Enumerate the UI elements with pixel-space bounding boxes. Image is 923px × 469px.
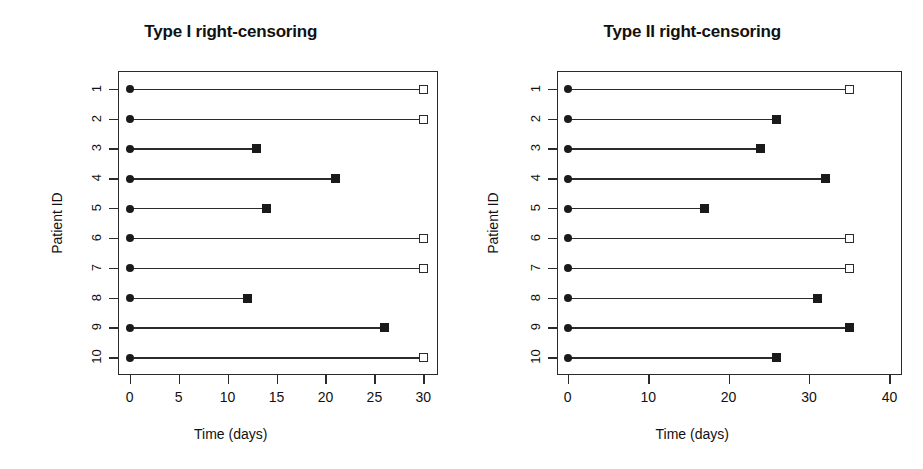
censored-marker: [845, 264, 854, 273]
event-marker: [252, 144, 261, 153]
followup-line: [568, 208, 705, 209]
followup-line: [130, 178, 336, 179]
y-axis-tick: [548, 357, 557, 358]
y-axis-tick: [109, 327, 118, 328]
x-axis-tick-label: 10: [220, 389, 236, 405]
y-axis-tick-label: 6: [89, 224, 104, 250]
x-axis-tick: [729, 375, 730, 384]
panel-type-i: Type I right-censoring Patient ID Time (…: [0, 0, 462, 469]
x-axis-tick-label: 20: [721, 389, 737, 405]
start-point-marker: [564, 115, 572, 123]
event-marker: [813, 294, 822, 303]
start-point-marker: [126, 354, 134, 362]
censored-marker: [419, 115, 428, 124]
censored-marker: [419, 85, 428, 94]
followup-line: [568, 238, 849, 239]
followup-line: [130, 148, 257, 149]
y-axis-tick-label: 3: [527, 135, 542, 161]
followup-line: [130, 89, 424, 90]
y-axis-tick-label: 9: [89, 314, 104, 340]
start-point-marker: [564, 294, 572, 302]
followup-line: [130, 357, 424, 358]
start-point-marker: [564, 354, 572, 362]
start-point-marker: [564, 175, 572, 183]
plot-area: [118, 71, 438, 375]
x-axis-tick: [568, 375, 569, 384]
x-axis-tick: [648, 375, 649, 384]
followup-line: [568, 327, 849, 328]
event-marker: [845, 323, 854, 332]
y-axis-tick-label: 1: [527, 75, 542, 101]
followup-line: [568, 298, 817, 299]
followup-line: [568, 357, 777, 358]
event-marker: [380, 323, 389, 332]
event-marker: [821, 174, 830, 183]
start-point-marker: [564, 264, 572, 272]
y-axis-tick: [548, 327, 557, 328]
y-axis-tick-label: 3: [89, 135, 104, 161]
event-marker: [772, 115, 781, 124]
followup-line: [130, 268, 424, 269]
start-point-marker: [126, 294, 134, 302]
x-axis-tick: [325, 375, 326, 384]
followup-line: [568, 268, 849, 269]
x-axis-tick-label: 30: [416, 389, 432, 405]
start-point-marker: [126, 115, 134, 123]
x-axis-tick: [809, 375, 810, 384]
y-axis-tick: [109, 119, 118, 120]
y-axis-tick: [548, 208, 557, 209]
start-point-marker: [126, 205, 134, 213]
x-axis-tick-label: 0: [126, 389, 134, 405]
censored-marker: [845, 85, 854, 94]
y-axis-tick-label: 8: [89, 284, 104, 310]
y-axis-tick: [109, 178, 118, 179]
x-axis-tick-label: 15: [269, 389, 285, 405]
followup-line: [130, 208, 267, 209]
start-point-marker: [564, 324, 572, 332]
x-axis-tick-label: 30: [801, 389, 817, 405]
followup-line: [568, 119, 777, 120]
y-axis-tick-label: 1: [89, 75, 104, 101]
x-axis-tick: [374, 375, 375, 384]
x-axis-tick: [179, 375, 180, 384]
y-axis-tick-label: 5: [527, 195, 542, 221]
y-axis-tick: [109, 357, 118, 358]
y-axis-tick: [109, 268, 118, 269]
y-axis-tick: [109, 298, 118, 299]
censored-marker: [419, 234, 428, 243]
start-point-marker: [126, 145, 134, 153]
x-axis-tick: [130, 375, 131, 384]
y-axis-tick-label: 7: [89, 254, 104, 280]
y-axis-tick: [548, 268, 557, 269]
x-axis-tick-label: 5: [175, 389, 183, 405]
x-axis-tick-label: 25: [367, 389, 383, 405]
x-axis-tick: [228, 375, 229, 384]
event-marker: [756, 144, 765, 153]
y-axis-tick-label: 6: [527, 224, 542, 250]
y-axis-tick: [548, 89, 557, 90]
y-axis-tick-label: 2: [527, 105, 542, 131]
y-axis-tick-label: 10: [89, 344, 104, 370]
x-axis-tick-label: 0: [564, 389, 572, 405]
y-axis-tick: [548, 178, 557, 179]
followup-line: [130, 298, 247, 299]
y-axis-tick-label: 2: [89, 105, 104, 131]
start-point-marker: [126, 264, 134, 272]
start-point-marker: [564, 205, 572, 213]
start-point-marker: [564, 145, 572, 153]
y-axis-tick: [109, 148, 118, 149]
event-marker: [331, 174, 340, 183]
y-axis-tick-label: 9: [527, 314, 542, 340]
x-axis-tick: [423, 375, 424, 384]
x-axis-tick: [277, 375, 278, 384]
start-point-marker: [126, 175, 134, 183]
y-axis-tick: [109, 89, 118, 90]
followup-line: [568, 89, 849, 90]
y-axis-title: Patient ID: [49, 163, 65, 283]
y-axis-tick-label: 4: [89, 165, 104, 191]
start-point-marker: [126, 324, 134, 332]
censored-marker: [845, 234, 854, 243]
x-axis-tick-label: 40: [882, 389, 898, 405]
y-axis-tick: [548, 238, 557, 239]
followup-line: [130, 238, 424, 239]
